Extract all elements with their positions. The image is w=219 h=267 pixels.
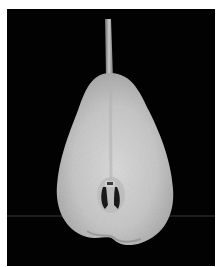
clipped-caption <box>10 0 160 6</box>
pear-photo <box>7 9 215 266</box>
pear-stem <box>105 19 113 77</box>
